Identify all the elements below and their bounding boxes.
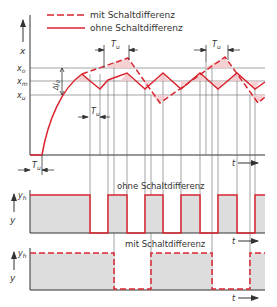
time-axis-label: t [232,159,236,168]
legend-with-hysteresis: mit Schaltdifferenz [90,10,175,20]
bottom-y-label: y [9,273,16,283]
middle-chart-title: ohne Schaltdifferenz [117,181,205,191]
level-xu-label: xu [16,91,26,101]
bottom-chart-title: mit Schaltdifferenz [125,239,206,249]
output-chart-without-hysteresis: ohne Schaltdifferenz y yh t [9,181,265,246]
dead-time-label-3: Tu [91,107,100,117]
output-chart-with-hysteresis: mit Schaltdifferenz y yh t [9,239,265,303]
legend-without-hysteresis: ohne Schaltdifferenz [90,23,183,33]
bottom-time-label: t [232,294,236,303]
dead-time-label-1: Tu [111,40,120,50]
hysteresis-label: ΔJ0 [52,80,61,91]
bottom-level-label: yh [17,249,27,259]
middle-y-label: y [9,215,16,225]
level-xm-label: xm [16,77,28,87]
dead-time-label-2: Tu [212,40,221,50]
dead-time-label-4: Tu [32,161,41,171]
y-axis-label: x [19,46,26,56]
middle-time-label: t [232,237,236,246]
deviation-fills [72,57,265,103]
bottom-output-fills [30,253,265,290]
middle-output-fills [30,195,265,233]
control-diagram: mit Schaltdifferenz ohne Schaltdifferenz… [0,0,277,307]
level-xo-label: xo [16,64,26,74]
middle-level-label: yh [17,191,27,201]
